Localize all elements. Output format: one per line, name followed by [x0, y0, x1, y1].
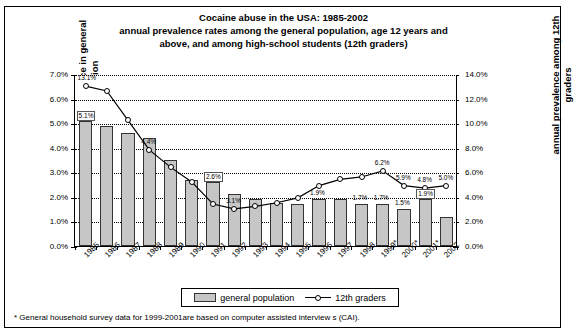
line-series-path — [75, 75, 457, 247]
right-axis-tick-label: 10.0% — [465, 120, 511, 128]
line-marker — [104, 88, 110, 94]
line-marker — [295, 195, 301, 201]
right-axis-title: annual prevalence among 12th graders — [550, 0, 574, 173]
line-marker — [210, 201, 216, 207]
line-data-label: 4.8% — [417, 176, 432, 184]
left-axis-tick-label: 7.0% — [22, 71, 68, 79]
left-axis-tick-label: 4.0% — [22, 145, 68, 153]
right-axis-tick-label: 4.0% — [465, 194, 511, 202]
plot-area: 5.1%2.6%1.9%1.7%1.7%1.5%1.9%13.1%4.4%3.1… — [74, 75, 456, 247]
legend-line-swatch — [305, 293, 331, 302]
bar-data-label: 5.1% — [77, 111, 96, 121]
left-axis-tick-label: 5.0% — [22, 120, 68, 128]
left-axis-tick-label: 3.0% — [22, 169, 68, 177]
left-axis-tick-mark — [71, 247, 77, 248]
bar-data-label: 1.5% — [395, 199, 410, 207]
x-axis-tick-mark — [75, 246, 76, 250]
line-data-label: 5.0% — [438, 174, 453, 182]
legend-bar-swatch — [194, 293, 216, 302]
line-marker — [168, 164, 174, 170]
left-axis-tick-label: 6.0% — [22, 96, 68, 104]
line-marker — [189, 179, 195, 185]
line-data-label: 3.1% — [226, 197, 241, 205]
bar-data-label: 1.9% — [416, 189, 435, 199]
line-marker — [359, 174, 365, 180]
line-marker — [380, 168, 386, 174]
left-axis-tick-label: 1.0% — [22, 218, 68, 226]
line-marker — [274, 200, 280, 206]
right-axis-tick-label: 2.0% — [465, 218, 511, 226]
bar-data-label: 1.7% — [353, 194, 368, 202]
right-axis-tick-label: 12.0% — [465, 96, 511, 104]
left-axis-tick-label: 0.0% — [22, 243, 68, 251]
line-marker — [83, 83, 89, 89]
line-data-label: 4.4% — [141, 138, 156, 146]
legend-line-label: 12th graders — [335, 293, 386, 303]
line-marker — [443, 183, 449, 189]
line-marker — [401, 183, 407, 189]
bar-data-label: 2.6% — [204, 172, 223, 182]
right-axis-tick-label: 14.0% — [465, 71, 511, 79]
line-data-label: 6.2% — [375, 159, 390, 167]
chart-footnote: * General household survey data for 1999… — [14, 313, 559, 323]
right-axis-tick-label: 0.0% — [465, 243, 511, 251]
legend-item-12th-graders: 12th graders — [305, 293, 386, 303]
right-axis-tick-label: 8.0% — [465, 145, 511, 153]
bar-data-label: 1.7% — [374, 194, 389, 202]
line-data-label: 5.9% — [396, 174, 411, 182]
line-data-label: 13.1% — [78, 74, 96, 82]
legend-bar-label: general population — [220, 293, 294, 303]
chart-legend: general population 12th graders — [181, 288, 399, 307]
line-marker — [316, 183, 322, 189]
left-axis-tick-label: 2.0% — [22, 194, 68, 202]
legend-item-general-population: general population — [194, 293, 294, 303]
right-axis-tick-label: 6.0% — [465, 169, 511, 177]
chart-frame: Cocaine abuse in the USA: 1985-2002 annu… — [4, 6, 561, 328]
bar-data-label: 1.9% — [310, 189, 325, 197]
right-axis-line — [456, 75, 457, 247]
